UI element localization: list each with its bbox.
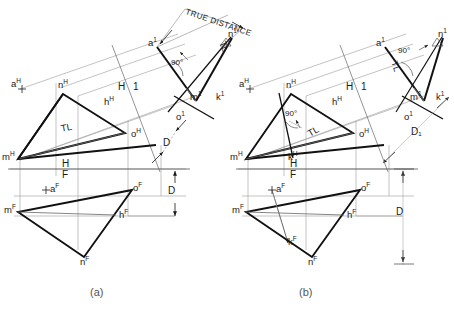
- figure-canvas: aH nH hH oH mH TL H F H 1 aF oF mF hF nF…: [0, 0, 454, 309]
- a-label-n-f: nF: [80, 257, 89, 267]
- b-dim-label-d1: D₁: [411, 127, 422, 137]
- a-label-o-f: oF: [133, 183, 142, 193]
- b-dim-d-front: [394, 169, 414, 265]
- a-fold-label-h: H: [62, 159, 69, 169]
- b-fold-label-h1-h: H: [346, 82, 353, 92]
- b-point-af-marker: [268, 186, 276, 194]
- a-point-af-marker: [42, 186, 50, 194]
- a-label-tl-hview: TL: [60, 122, 73, 133]
- b-label-m-h: mH: [230, 152, 243, 162]
- a-label-h-h: hH: [104, 97, 114, 107]
- b-label-n-1: n1: [438, 29, 447, 39]
- a-label-m-h: mH: [2, 152, 15, 162]
- a-label-a-1: a1: [148, 38, 157, 48]
- diagram-a-group: [8, 9, 243, 257]
- a-fold-line-h1: [112, 45, 160, 172]
- a-label-a-h: aH: [11, 79, 21, 89]
- b-dim-label-d-front: D: [396, 207, 403, 217]
- a-fold-label-h1-h: H: [118, 82, 125, 92]
- caption-a: (a): [90, 286, 103, 298]
- b-label-n-f: nF: [308, 257, 317, 267]
- b-fold-label-f: F: [290, 170, 296, 180]
- b-fold-line-h1: [340, 45, 388, 172]
- b-label-m-1: m1: [410, 92, 422, 102]
- b-label-o-f: oF: [361, 183, 370, 193]
- b-label-k-f: kF: [288, 237, 297, 247]
- a-label-k-1: k1: [216, 92, 224, 102]
- a-label-h-f: hF: [119, 210, 128, 220]
- diagram-b-group: [236, 34, 449, 265]
- b-label-m-f: mF: [232, 205, 244, 215]
- a-fold-label-f: F: [62, 170, 68, 180]
- b-label-o-h: oH: [359, 129, 369, 139]
- b-label-a-h: aH: [239, 79, 249, 89]
- b-label-h-h: hH: [332, 97, 342, 107]
- b-fold-label-h1-1: 1: [361, 82, 367, 92]
- b-label-right-angle-aux: 90°: [398, 47, 410, 55]
- b-label-o-1: o1: [404, 112, 413, 122]
- a-label-m-f: mF: [4, 205, 16, 215]
- a-label-o-1: o1: [176, 112, 185, 122]
- b-label-h-f: hF: [347, 210, 356, 220]
- a-label-o-h: oH: [131, 129, 141, 139]
- b-label-k-1: k1: [436, 92, 444, 102]
- b-fold-label-h: H: [290, 159, 297, 169]
- b-label-right-angle-hview: 90°: [285, 110, 297, 118]
- a-label-n-h: nH: [58, 80, 68, 90]
- a-f-view-triangle: [18, 190, 132, 257]
- a-fold-label-h1-1: 1: [133, 82, 139, 92]
- a-dim-label-d-aux: D: [163, 138, 170, 148]
- a-label-m-1: m1: [190, 92, 202, 102]
- b-label-a-f: aF: [276, 184, 285, 194]
- a-dim-label-d-front: D: [168, 186, 175, 196]
- b-label-n-h: nH: [286, 80, 296, 90]
- b-f-view-triangle: [246, 190, 360, 257]
- a-label-a-f: aF: [50, 184, 59, 194]
- b-label-a-1: a1: [376, 38, 385, 48]
- a-label-right-angle: 90°: [171, 59, 183, 67]
- caption-b: (b): [299, 286, 312, 298]
